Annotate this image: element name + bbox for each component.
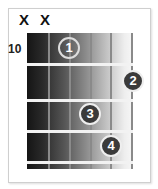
fret-line	[27, 130, 133, 133]
fret-line	[27, 63, 133, 66]
finger-marker-3: 3	[79, 103, 101, 125]
finger-marker-1: 1	[58, 37, 80, 59]
muted-string-6-marker: X	[19, 12, 29, 27]
fret-line	[27, 99, 133, 102]
finger-marker-2: 2	[122, 70, 144, 92]
fret-position-label: 10	[8, 42, 21, 56]
fret-line	[27, 161, 133, 164]
muted-string-5-marker: X	[40, 12, 50, 27]
finger-marker-4: 4	[100, 135, 122, 157]
